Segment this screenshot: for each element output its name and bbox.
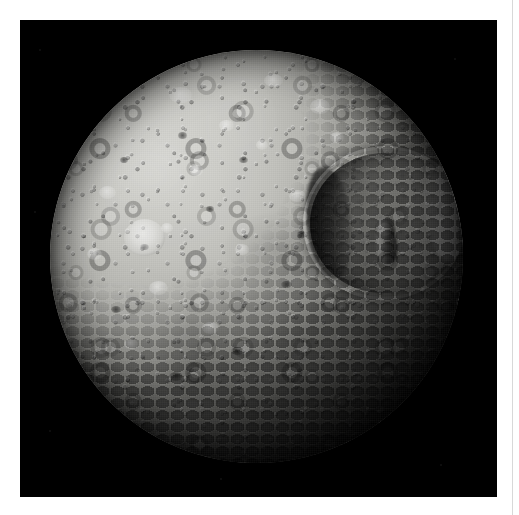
right-vertical-rule	[512, 0, 513, 515]
moon-disk-mimas	[50, 50, 463, 463]
dust-speck	[34, 211, 36, 213]
dust-speck	[440, 464, 442, 466]
photograph-mimas	[20, 20, 497, 497]
dust-speck	[39, 49, 41, 51]
dust-speck	[49, 430, 51, 432]
image-grain	[50, 50, 463, 463]
dust-speck	[220, 478, 222, 480]
page-canvas	[0, 0, 519, 515]
